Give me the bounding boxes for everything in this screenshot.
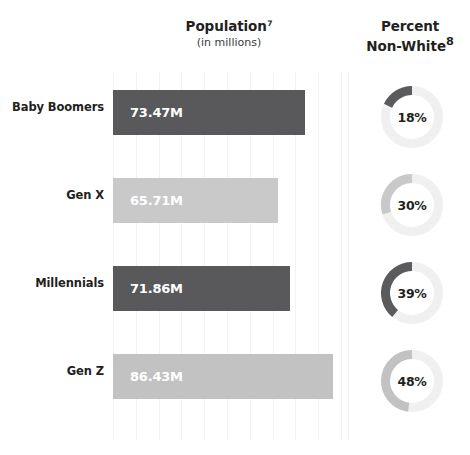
bar-value-label: 65.71M	[130, 193, 183, 208]
donut-value-label: 18%	[378, 83, 446, 151]
chart-row: Gen X 65.71M 30%	[0, 160, 470, 248]
row-label: Gen Z	[0, 364, 104, 378]
bar-value-label: 86.43M	[130, 369, 183, 384]
population-bar: 86.43M	[113, 354, 333, 399]
percent-non-white-donut: 18%	[378, 83, 446, 151]
bar-value-label: 73.47M	[130, 105, 183, 120]
population-footnote-marker: 7	[267, 19, 272, 28]
percent-non-white-donut: 30%	[378, 171, 446, 239]
population-column-header: Population7 (in millions)	[118, 18, 340, 50]
row-label: Gen X	[0, 188, 104, 202]
generation-comparison-chart: Population7 (in millions) Percent Non-Wh…	[0, 0, 470, 455]
percent-title-line2-text: Non-White	[366, 38, 446, 54]
chart-row: Baby Boomers 73.47M 18%	[0, 72, 470, 160]
bar-value-label: 71.86M	[130, 281, 183, 296]
percent-title-line2: Non-White8	[352, 35, 468, 55]
percent-non-white-donut: 39%	[378, 259, 446, 327]
row-label: Millennials	[0, 276, 104, 290]
chart-row: Millennials 71.86M 39%	[0, 248, 470, 336]
donut-value-label: 30%	[378, 171, 446, 239]
row-label: Baby Boomers	[0, 100, 104, 114]
population-subtitle: (in millions)	[118, 36, 340, 50]
donut-value-label: 48%	[378, 347, 446, 415]
population-title: Population7	[118, 18, 340, 35]
population-bar: 71.86M	[113, 266, 290, 311]
percent-footnote-marker: 8	[446, 35, 454, 48]
population-title-text: Population	[186, 18, 267, 34]
chart-row: Gen Z 86.43M 48%	[0, 336, 470, 424]
donut-value-label: 39%	[378, 259, 446, 327]
population-bar: 65.71M	[113, 178, 278, 223]
percent-non-white-column-header: Percent Non-White8	[352, 18, 468, 55]
population-bar: 73.47M	[113, 90, 305, 135]
percent-title-line1: Percent	[352, 18, 468, 35]
percent-non-white-donut: 48%	[378, 347, 446, 415]
